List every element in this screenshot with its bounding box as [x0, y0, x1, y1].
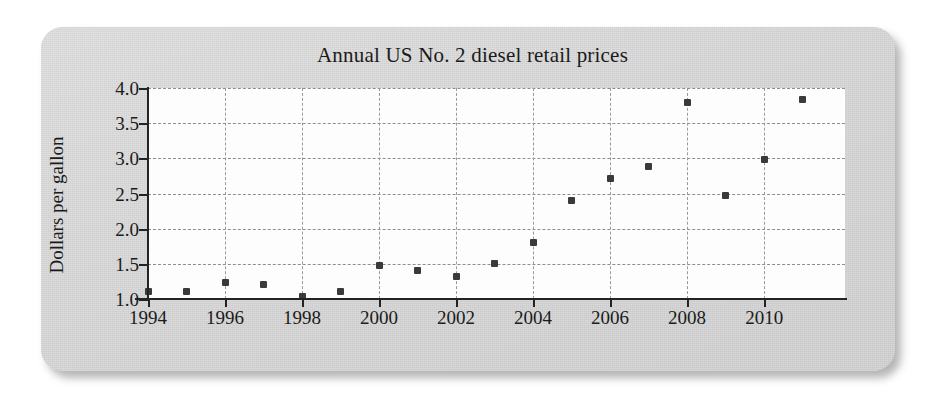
y-axis-tick-label-text: 2.5 [115, 184, 139, 206]
gridline-vertical [610, 88, 611, 299]
y-axis-tick-label-text: 3.5 [115, 113, 139, 135]
data-point [337, 288, 344, 295]
data-point [799, 96, 806, 103]
y-axis-tick [139, 123, 148, 125]
gridline-vertical [456, 88, 457, 299]
x-axis-tick [379, 299, 381, 307]
x-axis-tick-label: 2004 [498, 307, 568, 329]
data-point [414, 267, 421, 274]
data-point [684, 99, 691, 106]
y-axis-tick-label-text: 1.5 [115, 254, 139, 276]
data-point [607, 175, 614, 182]
x-axis-tick [610, 299, 612, 307]
x-axis-tick [148, 299, 150, 307]
data-point [376, 262, 383, 269]
x-axis-tick-label: 1998 [267, 307, 337, 329]
chart-title: Annual US No. 2 diesel retail prices [0, 43, 945, 68]
x-axis-tick [302, 299, 304, 307]
y-axis-tick [139, 158, 148, 160]
x-axis-tick [533, 299, 535, 307]
data-point [645, 163, 652, 170]
data-point [722, 192, 729, 199]
x-axis-tick-label: 2008 [652, 307, 722, 329]
gridline-horizontal [148, 194, 845, 195]
gridline-horizontal [148, 88, 845, 89]
x-axis-tick-label: 2010 [729, 307, 799, 329]
y-axis-tick [139, 299, 148, 301]
y-axis-tick-label-text: 2.0 [115, 219, 139, 241]
gridline-vertical [764, 88, 765, 299]
gridline-vertical [533, 88, 534, 299]
data-point [761, 156, 768, 163]
gridline-horizontal [148, 123, 845, 124]
plot-area [148, 88, 845, 299]
x-axis-tick [687, 299, 689, 307]
gridline-vertical [302, 88, 303, 299]
gridline-horizontal [148, 229, 845, 230]
y-axis-label: Dollars per gallon [46, 110, 68, 300]
x-axis-tick [225, 299, 227, 307]
x-axis-tick-label: 1996 [190, 307, 260, 329]
y-axis-tick [139, 194, 148, 196]
gridline-vertical [225, 88, 226, 299]
gridline-vertical [687, 88, 688, 299]
y-axis-tick [139, 229, 148, 231]
data-point [530, 239, 537, 246]
data-point [568, 197, 575, 204]
x-axis-line [135, 298, 847, 300]
x-axis-tick-label: 2006 [575, 307, 645, 329]
page-root: Annual US No. 2 diesel retail prices Dol… [0, 0, 945, 395]
x-axis-tick-label: 1994 [113, 307, 183, 329]
y-axis-tick-label-text: 4.0 [115, 78, 139, 100]
y-axis-tick-label-text: 3.0 [115, 148, 139, 170]
gridline-horizontal [148, 158, 845, 159]
data-point [260, 281, 267, 288]
x-axis-tick-label: 2002 [421, 307, 491, 329]
data-point [222, 279, 229, 286]
x-axis-tick-label: 2000 [344, 307, 414, 329]
x-axis-tick [456, 299, 458, 307]
data-point [491, 260, 498, 267]
y-axis-tick [139, 264, 148, 266]
data-point [183, 288, 190, 295]
data-point [453, 273, 460, 280]
y-axis-tick [139, 88, 148, 90]
x-axis-tick [764, 299, 766, 307]
